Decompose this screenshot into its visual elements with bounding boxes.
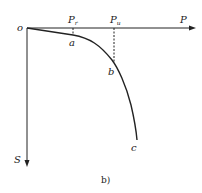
load-settlement-curve xyxy=(27,28,137,140)
pu-label: Pu xyxy=(109,14,121,26)
x-axis-arrow-icon xyxy=(189,26,196,31)
origin-label: o xyxy=(17,22,23,33)
x-axis-label: P xyxy=(179,14,187,25)
diagram-svg: o P S Pr Pu a b c b) xyxy=(0,0,202,193)
point-c-label: c xyxy=(131,142,137,153)
y-axis-arrow-icon xyxy=(25,160,30,167)
pr-label: Pr xyxy=(67,14,79,26)
load-settlement-diagram: o P S Pr Pu a b c b) xyxy=(0,0,202,193)
point-b-label: b xyxy=(108,66,114,77)
y-axis-label: S xyxy=(14,154,21,165)
figure-caption: b) xyxy=(101,175,110,185)
point-a-label: a xyxy=(69,37,75,48)
